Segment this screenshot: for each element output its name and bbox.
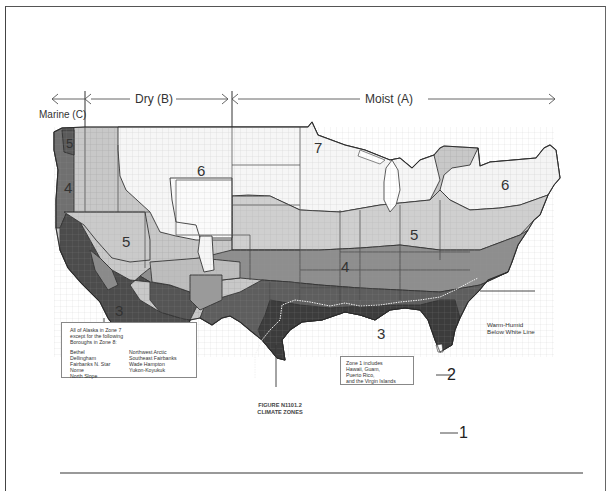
zone-label-5-washington: 5 (66, 137, 73, 150)
alaska-borough-col-1: Bethel Dellingham Fairbanks N. Star Nome… (70, 349, 129, 379)
zone-label-5-ohio: 5 (410, 227, 418, 242)
zone-label-1-callout: 1 (459, 425, 468, 441)
alaska-note-intro: All of Alaska in Zone 7 except for the f… (70, 327, 188, 345)
moisture-label-dry: Dry (B) (132, 92, 176, 106)
borough-item: Yukon-Koyukuk (129, 367, 188, 373)
zone-label-3-southeast: 3 (377, 326, 385, 341)
zone-label-6-rockies: 6 (197, 163, 205, 178)
alaska-note-box: All of Alaska in Zone 7 except for the f… (61, 322, 197, 378)
zone-label-2-callout: 2 (447, 367, 456, 383)
zone-label-7-midwest: 7 (314, 140, 322, 155)
bottom-divider (60, 472, 583, 474)
alaska-borough-columns: Bethel Dellingham Fairbanks N. Star Nome… (70, 349, 188, 379)
zone-label-4-oregon: 4 (64, 180, 72, 195)
moisture-regime-arrows (52, 91, 555, 127)
figure-caption: FIGURE N1101.2 CLIMATE ZONES (240, 402, 320, 416)
zone-label-3-california: 3 (115, 303, 123, 318)
figure-subtitle: CLIMATE ZONES (240, 409, 320, 416)
warm-humid-label: Warm-Humid Below White Line (487, 321, 535, 335)
borough-item: North Slope (70, 373, 129, 379)
moisture-label-moist: Moist (A) (362, 92, 416, 106)
zone1-note-line: and the Virgin Islands (346, 378, 408, 384)
alaska-borough-col-2: Northwest Arctic Southeast Fairbanks Wad… (129, 349, 188, 379)
warm-humid-line1: Warm-Humid (487, 321, 535, 328)
zone-label-6-newengland: 6 (501, 177, 509, 192)
figure-title: FIGURE N1101.2 (240, 402, 320, 409)
alaska-note-line: Boroughs in Zone 8: (70, 339, 188, 345)
warm-humid-line2: Below White Line (487, 328, 535, 335)
moisture-label-marine: Marine (C) (39, 109, 86, 120)
zone-label-5-greatbasin: 5 (122, 234, 130, 249)
zone1-note-box: Zone 1 includes Hawaii, Guam, Puerto Ric… (340, 356, 414, 385)
zone-label-4-midatlantic: 4 (341, 259, 349, 274)
